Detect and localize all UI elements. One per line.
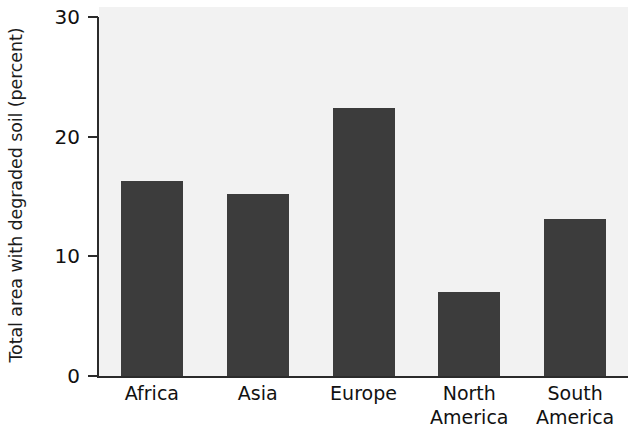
y-axis-tick-label: 0: [36, 366, 80, 386]
y-axis-tick-labels: 0102030: [28, 0, 80, 434]
bar: [227, 194, 289, 376]
x-axis-line: [97, 376, 628, 378]
x-axis-category-label: Africa: [99, 381, 205, 405]
x-axis-category-label: Asia: [205, 381, 311, 405]
y-axis-tick-label: 30: [36, 7, 80, 27]
x-axis-category-label-line: America: [522, 405, 628, 429]
x-axis-category-label: SouthAmerica: [522, 381, 628, 430]
x-axis-category-label-line: Africa: [99, 381, 205, 405]
x-axis-category-label: NorthAmerica: [416, 381, 522, 430]
x-axis-category-label-line: North: [416, 381, 522, 405]
y-axis-title: Total area with degraded soil (percent): [2, 5, 30, 385]
x-axis-category-label: Europe: [311, 381, 417, 405]
y-axis-tick-label: 20: [36, 127, 80, 147]
bar: [438, 292, 500, 376]
bar: [121, 181, 183, 376]
bar-chart: Total area with degraded soil (percent) …: [0, 0, 628, 434]
bar: [544, 219, 606, 376]
x-axis-category-label-line: South: [522, 381, 628, 405]
plot-area: [99, 7, 628, 376]
x-axis-category-labels: AfricaAsiaEuropeNorthAmericaSouthAmerica: [99, 381, 628, 434]
x-axis-category-label-line: America: [416, 405, 522, 429]
bar: [333, 108, 395, 376]
y-axis-tick-label: 10: [36, 246, 80, 266]
x-axis-category-label-line: Asia: [205, 381, 311, 405]
x-axis-category-label-line: Europe: [311, 381, 417, 405]
